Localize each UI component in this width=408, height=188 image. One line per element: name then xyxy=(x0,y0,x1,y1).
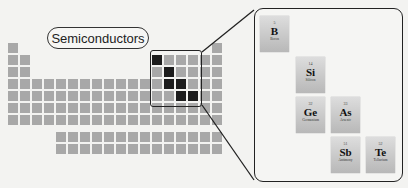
element-symbol: As xyxy=(331,106,360,118)
element-card-sb: 51SbAntimony xyxy=(331,137,360,173)
element-card-b: 5BBoron xyxy=(260,16,289,52)
element-name: Tellurium xyxy=(366,158,395,162)
element-name: Silicon xyxy=(296,78,325,82)
element-symbol: Sb xyxy=(331,146,360,158)
element-symbol: B xyxy=(260,25,289,37)
element-name: Boron xyxy=(260,37,289,41)
element-card-te: 52TeTellurium xyxy=(366,137,395,173)
element-card-si: 14SiSilicon xyxy=(296,57,325,93)
element-name: Antimony xyxy=(331,158,360,162)
element-symbol: Te xyxy=(366,146,395,158)
element-symbol: Si xyxy=(296,66,325,78)
element-card-as: 33AsArsenic xyxy=(331,97,360,133)
element-symbol: Ge xyxy=(296,106,325,118)
element-name: Arsenic xyxy=(331,118,360,122)
element-card-ge: 32GeGermanium xyxy=(296,97,325,133)
element-name: Germanium xyxy=(296,118,325,122)
